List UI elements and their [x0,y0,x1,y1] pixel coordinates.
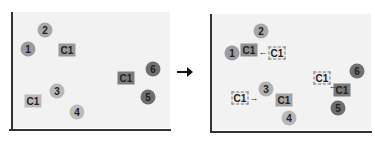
cluster-box: C1 [25,95,42,108]
prior-cluster-box: C1 [232,92,249,105]
right-y-axis [210,14,212,132]
left-x-axis [9,129,171,131]
node-1: 1 [225,46,240,61]
node-1: 1 [21,42,36,57]
left-y-axis [11,12,13,130]
node-4: 4 [70,105,85,120]
cluster-box: C1 [118,72,135,85]
cluster-box: C1 [59,44,76,57]
node-3: 3 [259,82,274,97]
move-arrow-icon: → [250,94,259,103]
node-4: 4 [282,111,297,126]
node-5: 5 [141,90,156,105]
node-6: 6 [146,62,161,77]
move-arrow-icon: ← [259,48,268,57]
node-5: 5 [331,101,346,116]
cluster-box: C1 [241,44,258,57]
node-3: 3 [50,84,65,99]
move-arrow-icon: ← [329,82,338,91]
prior-cluster-box: C1 [269,47,286,60]
cluster-box: C1 [276,94,293,107]
right-x-axis [210,131,372,133]
node-2: 2 [254,24,269,39]
transition-arrow-icon [177,66,193,78]
node-6: 6 [350,64,365,79]
node-2: 2 [38,23,53,38]
